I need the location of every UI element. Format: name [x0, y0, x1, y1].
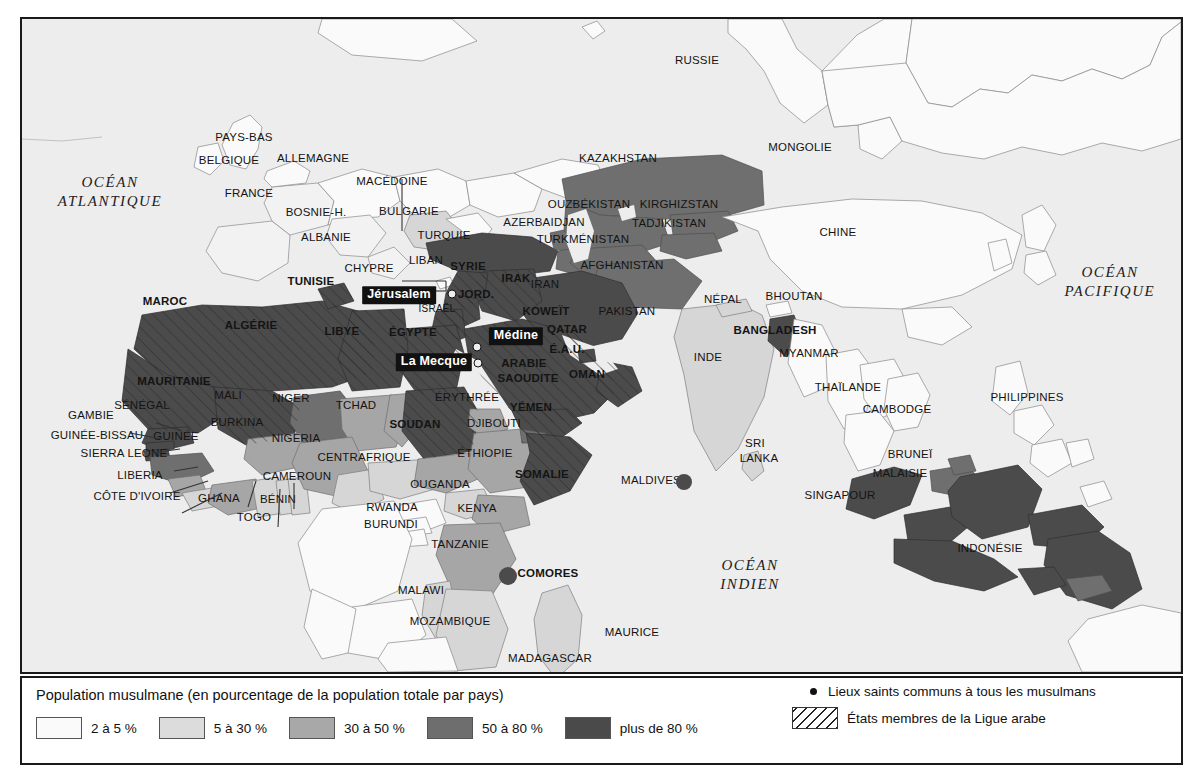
legend-swatch-4 — [565, 717, 611, 739]
map-canvas: .c0{fill:#fafafa;stroke:#888;stroke-widt… — [22, 19, 1181, 672]
world-map-svg: .c0{fill:#fafafa;stroke:#888;stroke-widt… — [22, 19, 1181, 672]
legend-title: Population musulmane (en pourcentage de … — [36, 687, 504, 703]
island-marker-dot — [676, 474, 692, 490]
legend-class-2: 30 à 50 % — [289, 717, 405, 739]
legend-swatch-0 — [36, 717, 82, 739]
legend-extra: Lieux saints communs à tous les musulman… — [792, 684, 1096, 737]
holy-site-dot-icon — [474, 359, 483, 368]
legend-swatch-label-3: 50 à 80 % — [482, 721, 543, 736]
island-marker-dot — [499, 567, 517, 585]
legend-holy-sites-label: Lieux saints communs à tous les musulman… — [828, 684, 1096, 699]
legend-holy-sites-row: Lieux saints communs à tous les musulman… — [792, 684, 1096, 699]
legend-panel: Population musulmane (en pourcentage de … — [20, 676, 1183, 765]
legend-arab-league-row: États membres de la Ligue arabe — [792, 707, 1096, 729]
legend-swatch-label-4: plus de 80 % — [620, 721, 698, 736]
map-frame: .c0{fill:#fafafa;stroke:#888;stroke-widt… — [20, 17, 1183, 674]
holy-site-dot-icon — [810, 688, 817, 695]
legend-swatch-2 — [289, 717, 335, 739]
legend-swatch-label-0: 2 à 5 % — [91, 721, 137, 736]
legend-class-0: 2 à 5 % — [36, 717, 137, 739]
holy-site-dot-icon — [448, 290, 457, 299]
holy-site-dot-icon — [473, 343, 482, 352]
map-page: .c0{fill:#fafafa;stroke:#888;stroke-widt… — [0, 0, 1199, 778]
legend-class-1: 5 à 30 % — [159, 717, 267, 739]
legend-swatch-1 — [159, 717, 205, 739]
legend-class-4: plus de 80 % — [565, 717, 698, 739]
legend-swatch-label-1: 5 à 30 % — [214, 721, 267, 736]
hatch-pattern-icon — [792, 707, 838, 729]
legend-swatch-3 — [427, 717, 473, 739]
legend-swatch-label-2: 30 à 50 % — [344, 721, 405, 736]
legend-scale: 2 à 5 %5 à 30 %30 à 50 %50 à 80 %plus de… — [36, 717, 720, 739]
legend-class-3: 50 à 80 % — [427, 717, 543, 739]
legend-arab-league-label: États membres de la Ligue arabe — [847, 711, 1046, 726]
